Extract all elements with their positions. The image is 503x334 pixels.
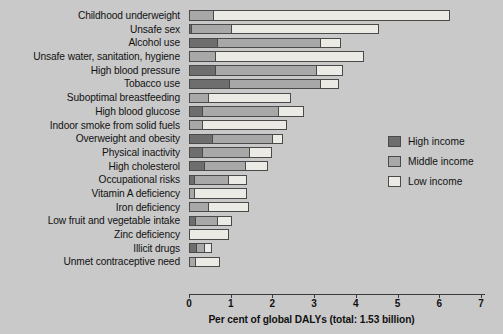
category-label: Illicit drugs [0, 242, 184, 256]
bar-segment-low [231, 25, 377, 33]
bar-segment-mid [190, 11, 213, 19]
stacked-bar[interactable] [189, 93, 291, 103]
bar-segment-mid [212, 135, 271, 143]
bar-segment-mid [217, 39, 320, 47]
bar-row [189, 255, 483, 269]
legend-label-low-income: Low income [408, 176, 462, 187]
bar-segment-mid [215, 66, 316, 74]
bar-segment-low [204, 244, 211, 252]
category-label: Unmet contraceptive need [0, 255, 184, 269]
category-label: Physical inactivity [0, 146, 184, 160]
x-tick-label: 7 [469, 298, 493, 309]
stacked-bar[interactable] [189, 229, 229, 239]
category-label: Indoor smoke from solid fuels [0, 119, 184, 133]
category-label: Unsafe sex [0, 23, 184, 37]
bar-segment-mid [195, 217, 217, 225]
bar-segment-mid [202, 148, 249, 156]
bar-chart: Childhood underweightUnsafe sexAlcohol u… [0, 0, 503, 334]
category-label: High blood glucose [0, 105, 184, 119]
bar-row [189, 50, 483, 64]
bar-segment-mid [190, 52, 215, 60]
bar-segment-low [213, 11, 450, 19]
bar-segment-high [190, 135, 212, 143]
bar-segment-low [320, 39, 341, 47]
stacked-bar[interactable] [189, 257, 220, 267]
legend-item-low-income[interactable]: Low income [388, 173, 500, 189]
bar-row [189, 242, 483, 256]
bar-segment-high [190, 66, 215, 74]
bar-segment-mid [229, 80, 320, 88]
bar-segment-low [190, 230, 228, 238]
bar-row [189, 228, 483, 242]
stacked-bar[interactable] [189, 188, 247, 198]
category-label: Suboptimal breastfeeding [0, 91, 184, 105]
stacked-bar[interactable] [189, 175, 247, 185]
bar-segment-mid [190, 121, 202, 129]
bar-segment-low [217, 217, 231, 225]
bar-row [189, 9, 483, 23]
category-label: Unsafe water, sanitation, hygiene [0, 50, 184, 64]
bar-row [189, 64, 483, 78]
bar-segment-low [194, 189, 246, 197]
stacked-bar[interactable] [189, 106, 304, 116]
bar-segment-low [320, 80, 339, 88]
category-label: Low fruit and vegetable intake [0, 214, 184, 228]
stacked-bar[interactable] [189, 51, 364, 61]
category-label: Overweight and obesity [0, 132, 184, 146]
bar-segment-low [208, 94, 290, 102]
category-label: Vitamin A deficiency [0, 187, 184, 201]
bar-segment-low [316, 66, 343, 74]
legend-item-high-income[interactable]: High income [388, 133, 500, 149]
bar-row [189, 23, 483, 37]
x-tick-label: 4 [344, 298, 368, 309]
bar-segment-high [190, 107, 202, 115]
category-label: Childhood underweight [0, 9, 184, 23]
bar-row [189, 214, 483, 228]
legend-label-middle-income: Middle income [408, 156, 474, 167]
category-label: Alcohol use [0, 36, 184, 50]
stacked-bar[interactable] [189, 38, 341, 48]
stacked-bar[interactable] [189, 147, 272, 157]
x-tick-label: 2 [260, 298, 284, 309]
stacked-bar[interactable] [189, 10, 450, 20]
legend-swatch-high-income [388, 136, 401, 147]
legend-item-middle-income[interactable]: Middle income [388, 153, 500, 169]
bar-segment-mid [204, 162, 245, 170]
stacked-bar[interactable] [189, 216, 232, 226]
bar-segment-mid [190, 203, 208, 211]
x-axis-title: Per cent of global DALYs (total: 1.53 bi… [0, 314, 503, 325]
stacked-bar[interactable] [189, 134, 283, 144]
category-label: Iron deficiency [0, 201, 184, 215]
stacked-bar[interactable] [189, 161, 268, 171]
bar-row [189, 36, 483, 50]
stacked-bar[interactable] [189, 120, 287, 130]
bar-segment-high [190, 80, 229, 88]
bar-row [189, 119, 483, 133]
category-label: Tobacco use [0, 77, 184, 91]
category-label: Zinc deficiency [0, 228, 184, 242]
x-tick-label: 0 [177, 298, 201, 309]
bar-row [189, 201, 483, 215]
bar-row [189, 91, 483, 105]
bar-segment-low [278, 107, 303, 115]
x-tick-label: 5 [386, 298, 410, 309]
stacked-bar[interactable] [189, 243, 212, 253]
bar-segment-mid [194, 176, 228, 184]
bar-segment-low [202, 121, 286, 129]
category-label: Occupational risks [0, 173, 184, 187]
bar-row [189, 77, 483, 91]
bar-segment-low [249, 148, 271, 156]
bar-segment-low [228, 176, 246, 184]
bar-segment-high [190, 148, 202, 156]
bar-segment-mid [196, 244, 204, 252]
stacked-bar[interactable] [189, 202, 249, 212]
bar-segment-low [208, 203, 248, 211]
bar-segment-high [190, 162, 204, 170]
legend: High income Middle income Low income [388, 133, 500, 193]
stacked-bar[interactable] [189, 79, 339, 89]
legend-swatch-low-income [388, 176, 401, 187]
x-tick-label: 3 [302, 298, 326, 309]
bar-segment-low [195, 258, 220, 266]
stacked-bar[interactable] [189, 65, 343, 75]
stacked-bar[interactable] [189, 24, 379, 34]
